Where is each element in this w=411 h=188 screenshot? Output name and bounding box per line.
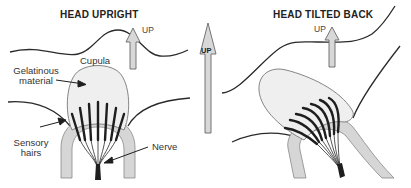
cupula-label: Cupula <box>80 56 110 66</box>
gelatinous-material-label: Gelatinous material <box>8 66 64 86</box>
left-nerve-trunk <box>95 164 101 180</box>
left-lower-curve-right <box>128 98 190 126</box>
right-up-arrow-shape <box>325 27 339 67</box>
sensory-hairs-label: Sensory hairs <box>6 138 56 158</box>
nerve-label: Nerve <box>152 142 177 152</box>
center-up-label: UP <box>201 46 211 56</box>
sensory-label-line2: hairs <box>6 148 56 158</box>
right-up-label: UP <box>314 24 326 34</box>
left-up-arrow-shape <box>126 28 140 69</box>
left-up-label: UP <box>142 25 154 35</box>
center-up-arrow-shape <box>200 23 216 133</box>
vestibular-diagram: HEAD UPRIGHT UP Cupula Gelatinous materi… <box>0 0 411 188</box>
gelatinous-label-line2: material <box>8 76 64 86</box>
left-upper-boundary <box>10 30 188 56</box>
right-nerve-trunk <box>337 163 345 178</box>
diagram-graphics <box>0 0 411 188</box>
right-lower-boundary <box>353 46 400 118</box>
right-panel-title: HEAD TILTED BACK <box>273 10 373 20</box>
right-panel-graphics <box>222 6 400 178</box>
left-panel-title: HEAD UPRIGHT <box>60 10 139 20</box>
